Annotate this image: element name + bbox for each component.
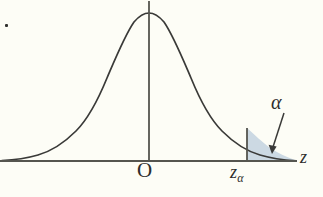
critical-value-label: zα [230,163,244,184]
rejection-region-shading [247,128,295,161]
normal-curve-figure: O zα z α [0,0,323,197]
critical-value-base: z [230,162,237,182]
alpha-leader-line [273,113,284,147]
origin-label: O [137,160,152,181]
critical-value-subscript: α [237,171,243,185]
scan-speck [5,24,8,27]
z-axis-label: z [300,148,307,166]
alpha-label: α [271,92,282,112]
